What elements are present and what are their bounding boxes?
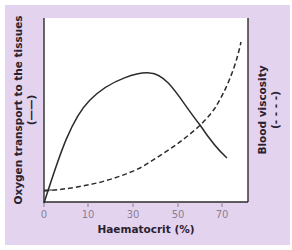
right-y-axis-title: Blood viscosity — [256, 65, 268, 154]
x-tick-label: 0 — [41, 209, 47, 220]
x-ticks — [44, 202, 222, 207]
x-tick-label: 30 — [127, 209, 140, 220]
x-axis-title: Haematocrit (%) — [97, 223, 194, 235]
x-tick-label: 70 — [216, 209, 229, 220]
right-y-axis-legend: (- - - -) — [269, 91, 281, 129]
haematocrit-chart: 0 10 30 50 70 Haematocrit (%) Oxygen tra… — [0, 0, 292, 250]
left-y-axis-legend: (——) — [25, 95, 37, 126]
left-y-axis-title: Oxygen transport to the tissues — [12, 15, 24, 204]
x-tick-label: 50 — [172, 209, 185, 220]
x-tick-label: 10 — [82, 209, 95, 220]
plot-area — [44, 18, 248, 202]
